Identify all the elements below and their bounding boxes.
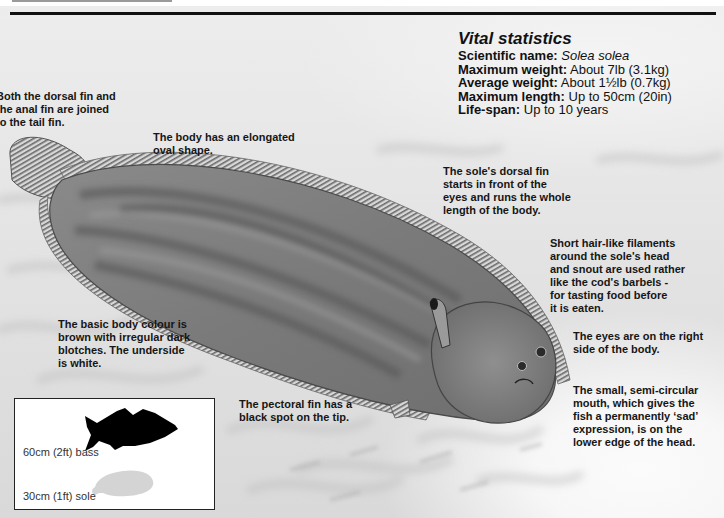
stat-maximum-length: Maximum length: Up to 50cm (20in) [458, 90, 718, 104]
upper-eye [536, 347, 546, 357]
annotation-mouth: The small, semi-circular mouth, which gi… [573, 384, 698, 449]
sole-size-label: 30cm (1ft) sole [23, 490, 96, 502]
annotation-filaments: Short hair-like filaments around the sol… [550, 237, 685, 315]
stat-average-weight: Average weight: About 1½lb (0.7kg) [458, 76, 718, 90]
header-strip [0, 0, 724, 6]
pectoral-fin-spot [430, 298, 438, 310]
lower-eye [518, 362, 527, 371]
annotation-pectoral-fin: The pectoral fin has a black spot on the… [239, 398, 352, 424]
sole-silhouette-icon [92, 470, 153, 496]
stat-life-span: Life-span: Up to 10 years [458, 103, 718, 117]
vital-statistics-title: Vital statistics [458, 30, 718, 48]
encyclopedia-page: Vital statistics Scientific name: Solea … [0, 0, 724, 518]
header-rule [10, 12, 716, 15]
header-tab [12, 0, 172, 2]
annotation-dorsal-fin: The sole's dorsal fin starts in front of… [443, 165, 571, 217]
annotation-body-colour: The basic body colour is brown with irre… [58, 318, 190, 370]
bass-silhouette-icon [85, 408, 178, 451]
bass-size-label: 60cm (2ft) bass [23, 446, 99, 458]
size-comparison-box: 60cm (2ft) bass 30cm (1ft) sole [14, 398, 215, 510]
vital-statistics-panel: Vital statistics Scientific name: Solea … [458, 30, 718, 117]
annotation-body-shape: The body has an elongated oval shape. [153, 131, 295, 157]
annotation-fins-joined: Both the dorsal fin and the anal fin are… [0, 90, 116, 129]
stat-scientific-name: Scientific name: Solea solea [458, 49, 718, 63]
annotation-eyes: The eyes are on the right side of the bo… [573, 330, 703, 356]
stat-maximum-weight: Maximum weight: About 7lb (3.1kg) [458, 63, 718, 77]
